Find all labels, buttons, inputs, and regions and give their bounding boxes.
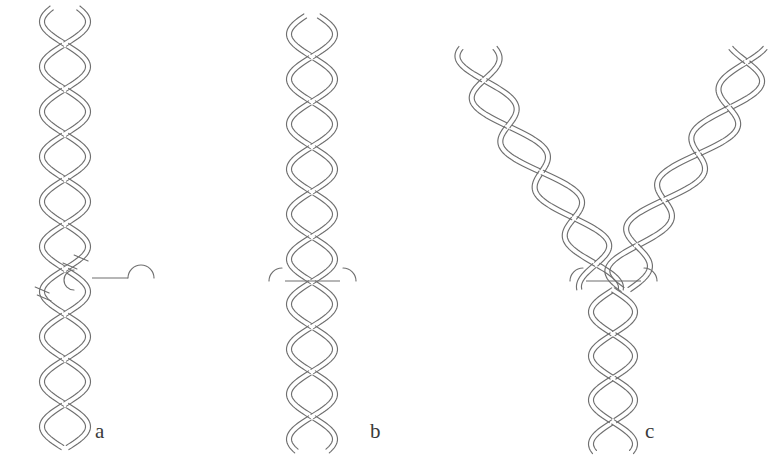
braid-diagram-svg	[0, 0, 779, 470]
ribbon-left-back-edge	[581, 267, 596, 289]
ribbon-left-mask	[614, 379, 635, 421]
ribbon-left-back-edge	[40, 403, 62, 449]
ribbon-left-mask	[312, 283, 335, 327]
ribbon-right-mask	[312, 238, 335, 282]
ribbon-left-mask	[732, 63, 762, 107]
ribbon-right-mask	[312, 58, 335, 102]
ribbon-right-back-edge	[455, 46, 482, 81]
nick-tick-3	[35, 287, 49, 293]
ribbon-left-back-edge	[287, 416, 309, 453]
ribbon-left-back-edge	[589, 420, 612, 454]
ribbon-right-mask	[65, 226, 88, 270]
ribbon-right-mask	[65, 46, 88, 90]
ribbon-right-mask	[67, 406, 88, 448]
figure-root: a b c	[0, 0, 779, 470]
ribbon-left-mask	[65, 361, 88, 405]
ribbon-left-mask	[312, 193, 335, 237]
ribbon-left-back-edge	[594, 424, 615, 450]
ribbon-left-mask	[576, 219, 609, 264]
ribbon-left-mask	[613, 290, 635, 334]
ribbon-right-mask	[65, 316, 88, 360]
ribbon-left-mask	[65, 271, 88, 315]
ribbon-left-back-edge	[589, 333, 611, 379]
panel-label-b: b	[370, 421, 381, 442]
ribbon-left-back-edge	[576, 264, 592, 290]
ribbon-right-back-edge	[292, 18, 314, 54]
ribbon-right-mask	[312, 148, 335, 192]
ribbon-right-back-edge	[610, 248, 638, 287]
panel-b-braid	[269, 14, 356, 453]
bridge-arc-left	[269, 268, 282, 281]
ribbon-left-mask	[65, 181, 88, 225]
ribbon-right-back-edge	[45, 10, 67, 42]
leader-cap-arc	[128, 265, 154, 278]
panel-label-a: a	[95, 421, 104, 442]
ribbon-left-mask	[312, 103, 335, 147]
panel-c-fork	[455, 46, 767, 453]
ribbon-right-mask	[65, 136, 88, 180]
panel-label-c: c	[645, 421, 654, 442]
nick-tick-4	[37, 295, 51, 301]
ribbon-right-back-edge	[287, 14, 311, 59]
panel-a-braid	[35, 6, 154, 450]
ribbon-right-mask	[312, 328, 335, 372]
ribbon-left-mask	[65, 91, 88, 135]
ribbon-left-back-edge	[733, 46, 748, 59]
ribbon-right-back-edge	[460, 50, 484, 78]
bridge-arc-right	[343, 268, 356, 281]
ribbon-left-mask	[312, 373, 335, 417]
ribbon-left-back-edge	[292, 420, 312, 449]
